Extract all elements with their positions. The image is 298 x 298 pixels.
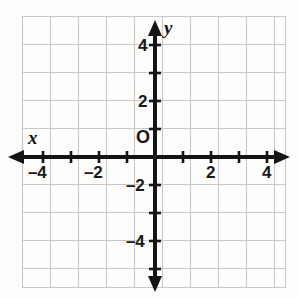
y-tick-label-minus4: –4 [126,233,145,250]
x-tick-label-minus4: –4 [28,164,47,181]
coordinate-grid-graphic [0,0,298,298]
y-tick-label-minus2: –2 [126,177,145,194]
x-tick-label-minus2: –2 [84,164,103,181]
y-tick-label-4: 4 [138,37,147,54]
x-tick-label-2: 2 [206,164,215,181]
x-tick-label-4: 4 [262,164,271,181]
coordinate-plane-figure: –4 –2 2 4 4 2 –2 –4 O x y [0,0,298,298]
origin-label: O [136,128,150,146]
y-tick-label-2: 2 [138,93,147,110]
x-axis-label: x [28,128,38,147]
y-axis-label: y [164,18,172,37]
